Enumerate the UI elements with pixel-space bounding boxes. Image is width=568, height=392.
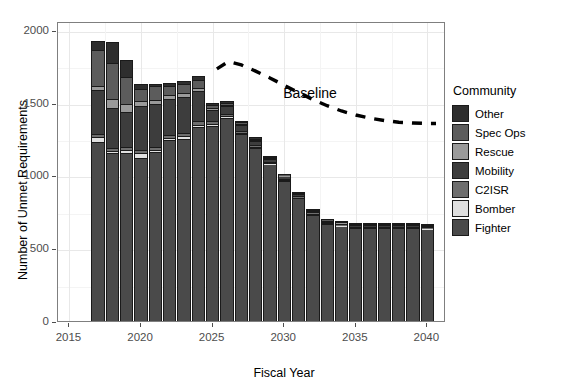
y-tick-label: 2000 bbox=[9, 24, 49, 36]
legend-label: C2ISR bbox=[475, 184, 509, 196]
legend-item-bomber[interactable]: Bomber bbox=[452, 199, 526, 218]
x-tick-mark bbox=[355, 323, 356, 327]
y-tick-mark bbox=[52, 249, 56, 250]
x-tick-mark bbox=[283, 323, 284, 327]
legend-label: Bomber bbox=[475, 203, 515, 215]
y-tick-mark bbox=[52, 322, 56, 323]
legend-swatch bbox=[452, 105, 469, 122]
legend-label: Fighter bbox=[475, 222, 511, 234]
x-tick-label: 2035 bbox=[330, 331, 380, 343]
y-tick-mark bbox=[52, 31, 56, 32]
plot-area bbox=[57, 22, 445, 322]
x-tick-label: 2025 bbox=[187, 331, 237, 343]
x-tick-mark bbox=[212, 323, 213, 327]
legend-swatch bbox=[452, 143, 469, 160]
x-tick-mark bbox=[140, 323, 141, 327]
y-tick-label: 500 bbox=[9, 242, 49, 254]
y-tick-mark bbox=[52, 176, 56, 177]
legend-items: OtherSpec OpsRescueMobilityC2ISRBomberFi… bbox=[452, 104, 526, 237]
legend-swatch bbox=[452, 181, 469, 198]
legend-label: Other bbox=[475, 108, 504, 120]
legend-item-fighter[interactable]: Fighter bbox=[452, 218, 526, 237]
chart-legend: Community OtherSpec OpsRescueMobilityC2I… bbox=[452, 84, 526, 237]
legend-swatch bbox=[452, 124, 469, 141]
x-tick-label: 2040 bbox=[401, 331, 451, 343]
x-tick-label: 2015 bbox=[43, 331, 93, 343]
legend-item-c2isr[interactable]: C2ISR bbox=[452, 180, 526, 199]
legend-label: Rescue bbox=[475, 146, 514, 158]
legend-label: Spec Ops bbox=[475, 127, 526, 139]
legend-item-spec-ops[interactable]: Spec Ops bbox=[452, 123, 526, 142]
legend-label: Mobility bbox=[475, 165, 514, 177]
legend-swatch bbox=[452, 200, 469, 217]
x-tick-label: 2030 bbox=[258, 331, 308, 343]
y-tick-label: 1500 bbox=[9, 97, 49, 109]
legend-swatch bbox=[452, 219, 469, 236]
legend-item-mobility[interactable]: Mobility bbox=[452, 161, 526, 180]
stacked-bar-chart: Number of Unmet Requirements Fiscal Year… bbox=[0, 0, 568, 392]
legend-item-other[interactable]: Other bbox=[452, 104, 526, 123]
y-tick-label: 1000 bbox=[9, 169, 49, 181]
baseline-reference-line bbox=[58, 23, 445, 322]
baseline-annotation-label: Baseline bbox=[283, 85, 337, 101]
legend-swatch bbox=[452, 162, 469, 179]
y-tick-mark bbox=[52, 104, 56, 105]
x-tick-mark bbox=[426, 323, 427, 327]
x-tick-label: 2020 bbox=[115, 331, 165, 343]
y-tick-label: 0 bbox=[9, 315, 49, 327]
x-tick-mark bbox=[68, 323, 69, 327]
legend-item-rescue[interactable]: Rescue bbox=[452, 142, 526, 161]
x-axis-title: Fiscal Year bbox=[0, 366, 568, 380]
legend-title: Community bbox=[453, 84, 526, 98]
